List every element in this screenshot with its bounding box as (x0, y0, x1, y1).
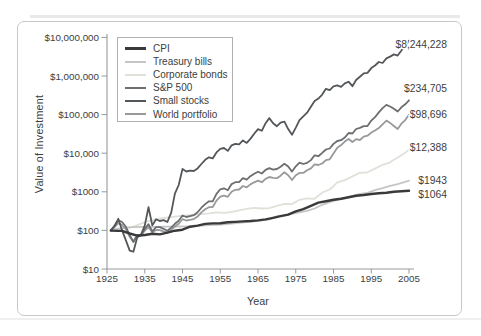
legend-label-small-stocks: Small stocks (153, 95, 209, 106)
legend-row-small-stocks: Small stocks (118, 94, 232, 107)
series-line-treasury-bills (111, 181, 409, 230)
x-tick-label-1945: 1945 (172, 273, 194, 284)
legend-swatch-corporate-bonds (125, 74, 146, 76)
x-tick-label-1955: 1955 (209, 273, 231, 284)
y-axis-title: Value of Investment (33, 79, 45, 209)
legend-row-cpi: CPI (118, 42, 232, 55)
legend-row-world-portfolio: World portfolio (118, 107, 232, 120)
y-tick-label-10-000: $10,000 (64, 148, 100, 159)
final-value-label-s-p-500: $234,705 (404, 83, 447, 94)
x-tick-label-1985: 1985 (323, 273, 345, 284)
y-tick-label-1000: $1000 (72, 186, 100, 197)
final-value-label-corporate-bonds: $12,388 (410, 142, 447, 153)
legend-swatch-cpi (125, 47, 146, 49)
y-tick-label-100: $100 (77, 225, 99, 236)
x-tick-label-1965: 1965 (247, 273, 269, 284)
legend-row-s-p-500: S&P 500 (118, 81, 232, 94)
legend-label-treasury-bills: Treasury bills (153, 56, 212, 67)
x-tick-label-1975: 1975 (285, 273, 307, 284)
y-tick-label-10-000-000: $10,000,000 (45, 32, 100, 43)
x-axis-title: Year (188, 295, 328, 307)
chart-svg: $10$100$1000$10,000$100,000$1,000,000$10… (0, 0, 481, 336)
x-tick-label-1925: 1925 (96, 273, 118, 284)
series-line-corporate-bonds (111, 150, 409, 230)
legend-swatch-world-portfolio (125, 113, 146, 115)
legend-swatch-s-p-500 (125, 87, 146, 89)
x-tick-label-2005: 2005 (398, 273, 420, 284)
series-line-world-portfolio (111, 115, 409, 242)
legend-swatch-small-stocks (125, 100, 146, 102)
x-tick-label-1995: 1995 (360, 273, 382, 284)
legend-label-cpi: CPI (153, 43, 170, 54)
x-tick-label-1935: 1935 (134, 273, 156, 284)
legend-row-treasury-bills: Treasury bills (118, 55, 232, 68)
final-value-label-world-portfolio: $98,696 (410, 109, 447, 120)
y-tick-label-1-000-000: $1,000,000 (50, 71, 100, 82)
legend: CPITreasury billsCorporate bondsS&P 500S… (117, 37, 233, 122)
final-value-label-small-stocks: $8,244,228 (395, 39, 447, 50)
legend-swatch-treasury-bills (125, 61, 146, 63)
y-tick-label-100-000: $100,000 (58, 109, 99, 120)
final-value-label-cpi: $1064 (418, 189, 447, 200)
legend-row-corporate-bonds: Corporate bonds (118, 68, 232, 81)
legend-label-s-p-500: S&P 500 (153, 82, 192, 93)
legend-label-corporate-bonds: Corporate bonds (153, 69, 228, 80)
legend-label-world-portfolio: World portfolio (153, 109, 217, 120)
final-value-label-treasury-bills: $1943 (418, 175, 447, 186)
